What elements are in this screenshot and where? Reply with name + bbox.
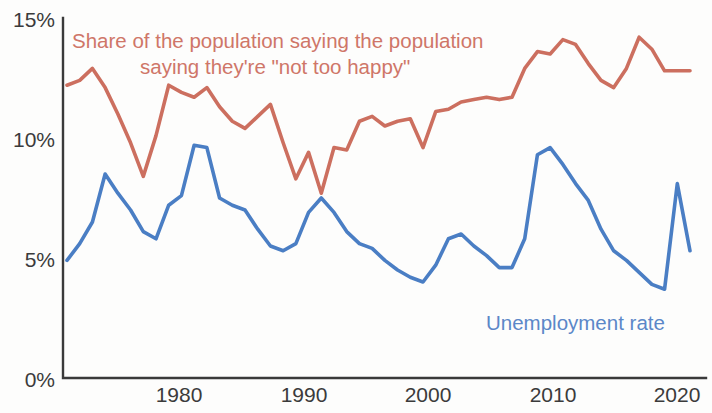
y-axis-tick-0: 0%: [25, 368, 55, 391]
y-axis-tick-5: 5%: [25, 248, 55, 271]
y-axis-tick-10: 10%: [13, 128, 55, 151]
annotation-unemployment-rate: Unemployment rate: [486, 311, 665, 334]
series-line-unemployment-rate: [67, 145, 690, 289]
x-axis-tick-1980: 1980: [156, 383, 203, 406]
x-axis-tick-2000: 2000: [405, 383, 452, 406]
annotation-not-too-happy-line2: saying they're "not too happy": [140, 55, 410, 78]
x-axis-tick-1990: 1990: [281, 383, 328, 406]
y-axis-tick-15: 15%: [13, 8, 55, 31]
x-axis-tick-2010: 2010: [530, 383, 577, 406]
line-chart: 15% 10% 5% 0% 1980 1990 2000 2010 2020 S…: [0, 0, 712, 413]
x-axis-tick-2020: 2020: [654, 383, 701, 406]
annotation-not-too-happy-line1: Share of the population saying the popul…: [72, 29, 483, 52]
chart-container: 15% 10% 5% 0% 1980 1990 2000 2010 2020 S…: [0, 0, 712, 413]
